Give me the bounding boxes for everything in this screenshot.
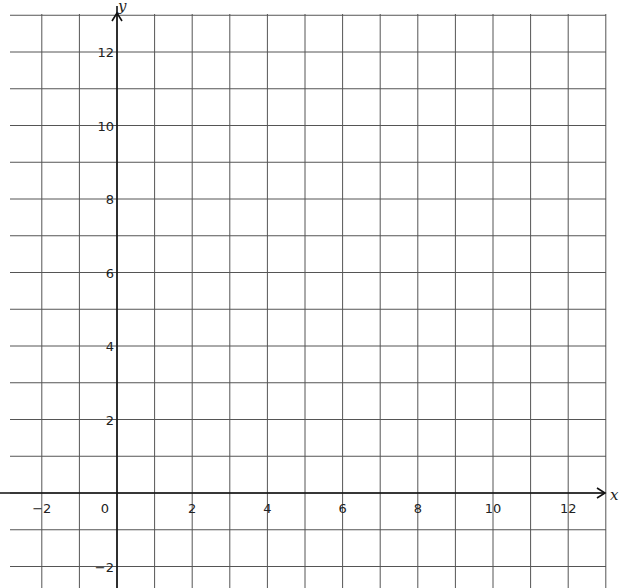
x-tick-label: −2 <box>32 501 51 516</box>
x-tick-label: 4 <box>263 501 271 516</box>
y-tick-label: 12 <box>97 45 114 60</box>
x-tick-label: 0 <box>101 501 109 516</box>
y-axis-label: y <box>117 0 127 15</box>
x-tick-label: 6 <box>338 501 346 516</box>
x-tick-label: 2 <box>188 501 196 516</box>
y-tick-label: 8 <box>106 192 114 207</box>
y-tick-label: 2 <box>106 413 114 428</box>
y-tick-label: 10 <box>97 119 114 134</box>
y-tick-label: −2 <box>95 560 114 575</box>
y-tick-label: 4 <box>106 339 114 354</box>
x-tick-label: 12 <box>560 501 577 516</box>
axes <box>0 6 605 588</box>
coordinate-grid-chart: −2024681012−224681012 x y <box>0 0 624 588</box>
x-tick-label: 10 <box>485 501 502 516</box>
x-tick-label: 8 <box>414 501 422 516</box>
grid-lines <box>10 14 606 588</box>
x-axis-label: x <box>610 486 619 504</box>
y-tick-label: 6 <box>106 266 114 281</box>
